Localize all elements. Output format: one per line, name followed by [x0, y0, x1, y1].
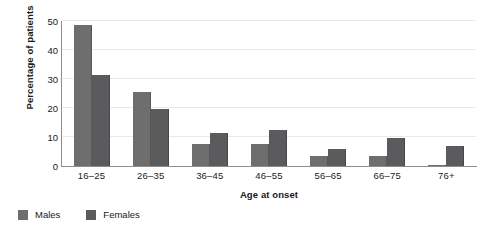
legend-swatch-icon — [18, 210, 28, 220]
y-axis-tick-labels: 01020304050 — [36, 21, 58, 166]
x-axis-tick-label: 36–45 — [180, 170, 239, 186]
y-axis-tick-label: 10 — [38, 132, 58, 143]
legend-label: Males — [35, 209, 60, 220]
bar-females-5665 — [328, 149, 346, 166]
x-axis-tick-label: 16–25 — [62, 170, 121, 186]
bar-males-3645 — [192, 144, 210, 166]
bar-group — [358, 21, 417, 166]
x-axis-tick-label: 56–65 — [299, 170, 358, 186]
bar-chart: Percentage of patients 01020304050 16–25… — [0, 0, 488, 236]
x-axis-title: Age at onset — [62, 189, 476, 200]
bar-group — [180, 21, 239, 166]
bar-females-2635 — [151, 109, 169, 166]
plot-area — [62, 21, 476, 166]
y-axis-tick-label: 40 — [38, 45, 58, 56]
y-axis-title: Percentage of patients — [24, 0, 35, 133]
x-axis-tick-label: 76+ — [417, 170, 476, 186]
y-axis-tick-label: 50 — [38, 16, 58, 27]
bar-males-5665 — [310, 156, 328, 166]
bar-group — [299, 21, 358, 166]
bar-group — [417, 21, 476, 166]
y-axis-tick-label: 20 — [38, 103, 58, 114]
x-axis-line — [62, 166, 477, 167]
bar-females-6675 — [387, 138, 405, 166]
legend-item-males[interactable]: Males — [18, 209, 60, 220]
bar-males-76 — [428, 165, 446, 166]
bar-group — [121, 21, 180, 166]
legend-swatch-icon — [86, 210, 96, 220]
bar-males-4655 — [251, 144, 269, 166]
x-axis-tick-labels: 16–2526–3536–4546–5556–6566–7576+ — [62, 170, 476, 186]
bar-males-2635 — [133, 92, 151, 166]
x-axis-tick-label: 46–55 — [239, 170, 298, 186]
chart-legend: MalesFemales — [18, 209, 166, 220]
bar-females-3645 — [210, 133, 228, 166]
y-axis-tick-label: 30 — [38, 74, 58, 85]
bar-males-1625 — [74, 25, 92, 166]
legend-label: Females — [103, 209, 139, 220]
bar-group — [239, 21, 298, 166]
bar-females-1625 — [92, 75, 110, 166]
x-axis-tick-label: 26–35 — [121, 170, 180, 186]
bars-layer — [62, 21, 476, 166]
bar-females-4655 — [269, 130, 287, 166]
bar-group — [62, 21, 121, 166]
x-axis-tick-label: 66–75 — [358, 170, 417, 186]
bar-females-76 — [446, 146, 464, 166]
bar-males-6675 — [369, 156, 387, 166]
y-axis-tick-label: 0 — [38, 161, 58, 172]
legend-item-females[interactable]: Females — [86, 209, 139, 220]
